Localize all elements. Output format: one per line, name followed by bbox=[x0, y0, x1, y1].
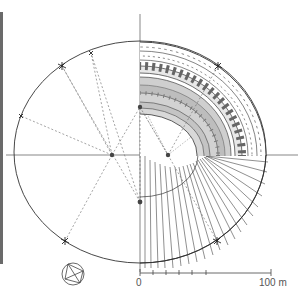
lower-center-marker bbox=[138, 200, 143, 205]
right-focus-marker bbox=[166, 153, 170, 157]
scale-bar bbox=[140, 269, 271, 276]
left-focus-marker bbox=[110, 153, 114, 157]
amphitheatre-plan bbox=[0, 0, 305, 297]
compass-rose-icon bbox=[62, 263, 84, 285]
radial-walls bbox=[140, 155, 268, 268]
upper-center-marker bbox=[138, 105, 142, 109]
scale-label-100m: 100 m bbox=[259, 277, 287, 288]
scale-label-zero: 0 bbox=[136, 277, 142, 288]
